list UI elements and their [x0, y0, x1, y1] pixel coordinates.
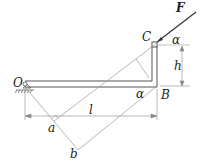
label-B: B [161, 89, 170, 101]
label-alpha-bottom: α [136, 88, 144, 100]
label-C: C [142, 31, 151, 43]
label-alpha-top: α [172, 34, 180, 46]
lever-diagram: F C α h O α B l a b [0, 0, 209, 166]
pivot-O [23, 82, 27, 86]
bar-BC [152, 42, 157, 87]
label-l: l [89, 104, 93, 116]
label-F: F [176, 2, 185, 14]
label-b: b [70, 148, 78, 160]
label-h: h [174, 60, 182, 72]
diagram-graphics [0, 0, 209, 166]
label-a: a [48, 122, 55, 134]
label-O: O [13, 77, 23, 89]
